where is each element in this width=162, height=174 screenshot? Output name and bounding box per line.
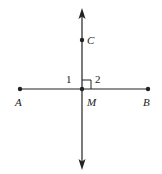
- label-a: A: [14, 96, 22, 108]
- label-angle-1: 1: [66, 73, 72, 85]
- label-m: M: [86, 96, 97, 108]
- label-c: C: [87, 34, 95, 46]
- label-b: B: [143, 96, 150, 108]
- point-c: [80, 38, 84, 42]
- geometry-diagram: A B C M 1 2: [0, 0, 162, 174]
- point-b: [146, 87, 150, 91]
- label-angle-2: 2: [95, 73, 101, 85]
- point-a: [18, 87, 22, 91]
- point-m: [80, 87, 84, 91]
